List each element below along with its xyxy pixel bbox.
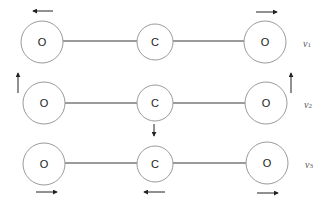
mode-label-v1: ν1	[303, 38, 311, 50]
atom-oxygen-right: O	[246, 142, 288, 184]
mode-label-v2: ν2	[304, 99, 312, 111]
svg-text:O: O	[38, 36, 47, 48]
atom-oxygen-right: O	[245, 82, 287, 124]
atom-carbon: C	[137, 85, 173, 121]
atom-carbon: C	[137, 146, 173, 182]
atom-oxygen-left: O	[23, 82, 65, 124]
svg-text:C: C	[151, 158, 159, 170]
svg-text:C: C	[151, 97, 159, 109]
mode-row-2: O C O ν2	[18, 73, 312, 136]
mode-row-3: O C O ν3	[23, 142, 313, 193]
svg-text:O: O	[261, 36, 270, 48]
svg-text:O: O	[262, 97, 271, 109]
svg-text:C: C	[151, 36, 159, 48]
co2-vibrational-modes-diagram: O C O ν1 O C O ν2	[0, 0, 330, 208]
mode-row-1: O C O ν1	[21, 11, 311, 63]
svg-text:O: O	[263, 157, 272, 169]
atom-oxygen-left: O	[23, 143, 65, 185]
mode-label-v3: ν3	[305, 159, 313, 171]
atom-oxygen-right: O	[244, 21, 286, 63]
svg-text:O: O	[40, 97, 49, 109]
atom-oxygen-left: O	[21, 21, 63, 63]
atom-carbon: C	[137, 24, 173, 60]
svg-text:O: O	[40, 158, 49, 170]
